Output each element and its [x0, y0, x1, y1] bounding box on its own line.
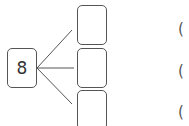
branch-box-2[interactable]: [77, 48, 107, 88]
answer-paren-3: (: [178, 103, 184, 121]
root-number-box: 8: [7, 48, 37, 88]
root-number: 8: [17, 58, 28, 78]
branch-box-1[interactable]: [77, 5, 107, 45]
answer-paren-2: (: [178, 62, 184, 80]
answer-paren-1: (: [178, 20, 184, 38]
branch-box-3[interactable]: [77, 90, 107, 126]
